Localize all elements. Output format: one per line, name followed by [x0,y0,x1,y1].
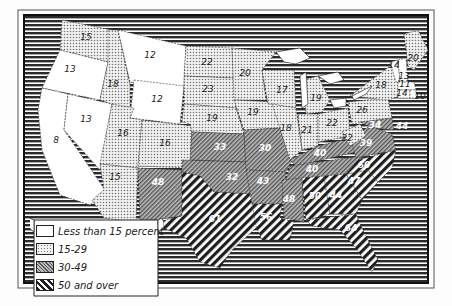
state-value-label: 10 [414,91,426,101]
legend-label: 30-49 [58,262,87,273]
state-value-label: 12 [144,50,156,60]
state-value-label: 13 [80,114,92,124]
state-value-label: 44 [329,190,343,200]
state-value-label: 61 [209,214,222,224]
legend-item-30to49: 30-49 [36,260,87,274]
state-value-label: 40 [305,164,319,174]
state-value-label: 60 [358,160,371,170]
legend-swatch-hatch [36,261,54,273]
legend-swatch-dots [36,243,54,255]
state-value-label: 34 [369,120,382,130]
legend-swatch-heavy-hatch [36,279,54,291]
legend-item-lt15: Less than 15 percent [36,224,164,238]
state-value-label: 17 [276,85,288,95]
state-value-label: 64 [345,223,358,233]
state-value-label: 33 [214,142,227,152]
state-value-label: 48 [282,194,296,204]
state-value-label: 48 [151,177,165,187]
state-value-label: 47 [347,176,361,186]
state-value-label: 26 [356,105,368,115]
state-value-label: 20 [407,53,419,63]
legend: Less than 15 percent 15-29 30-49 50 and … [30,218,164,298]
state-value-label: 39 [360,138,373,148]
state-value-label: 40 [313,148,327,158]
state-value-label: 44 [395,121,409,131]
state-value-label: 8 [53,135,59,145]
state-value-label: 19 [310,93,322,103]
state-value-label: 50 [309,191,322,201]
legend-label: Less than 15 percent [58,226,164,237]
state-value-label: 22 [341,133,353,143]
state-value-label: 14 [396,88,408,98]
legend-label: 15-29 [58,244,87,255]
state-value-label: 20 [239,68,251,78]
state-value-label: 18 [107,79,119,89]
state-value-label: 32 [226,172,239,182]
legend-label: 50 and over [58,280,118,291]
state-value-label: 14 [388,60,400,70]
state-value-label: 16 [159,138,171,148]
state-value-label: 15 [80,32,92,42]
state-value-label: 43 [256,176,270,186]
legend-item-50plus: 50 and over [36,278,118,292]
state-value-label: 15 [109,172,121,182]
state-value-label: 22 [326,118,338,128]
state-value-label: 30 [259,143,272,153]
state-value-label: 22 [201,57,213,67]
legend-item-15to29: 15-29 [36,242,87,256]
state-value-label: 13 [64,64,76,74]
state-value-label: 56 [260,212,273,222]
state-value-label: 19 [206,113,218,123]
state-value-label: 18 [280,123,292,133]
state-value-label: 12 [151,94,163,104]
legend-swatch-white [36,225,54,237]
state-value-label: 19 [247,107,259,117]
state-value-label: 18 [375,80,387,90]
state-value-label: 16 [117,128,129,138]
state-value-label: 23 [202,84,214,94]
state-value-label: 21 [301,125,312,135]
